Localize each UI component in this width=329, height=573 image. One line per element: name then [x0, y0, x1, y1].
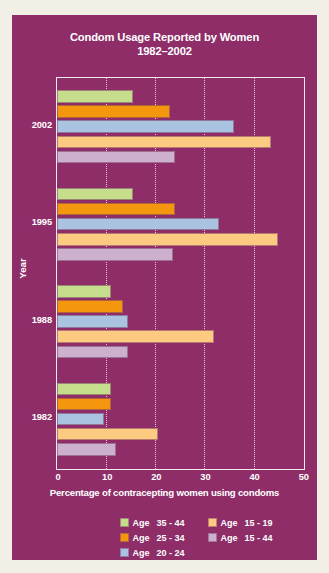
- y-tick-1995: 1995: [12, 217, 52, 227]
- bar-1995-Age35-44: [57, 188, 133, 201]
- bar-1995-Age20-24: [57, 218, 219, 231]
- legend-label: Age: [133, 518, 157, 528]
- legend-item-15-19[interactable]: Age15 - 19: [208, 518, 296, 528]
- chart-title: Condom Usage Reported by Women 1982–2002: [12, 31, 317, 58]
- x-tick-20: 20: [141, 472, 171, 482]
- bar-1988-Age35-44: [57, 285, 111, 298]
- bar-2002-Age15-44: [57, 151, 175, 164]
- bar-row: [57, 300, 303, 313]
- bar-1988-Age15-19: [57, 330, 214, 343]
- bar-1982-Age25-34: [57, 398, 111, 411]
- bar-row: [57, 398, 303, 411]
- legend-range: 25 - 34: [157, 533, 185, 543]
- legend-label: Age: [221, 518, 245, 528]
- legend-swatch-icon: [120, 518, 129, 527]
- x-tick-50: 50: [289, 472, 317, 482]
- legend-item-15-44[interactable]: Age15 - 44: [208, 533, 296, 543]
- legend-item-35-44[interactable]: Age35 - 44: [120, 518, 208, 528]
- legend-range: 15 - 19: [245, 518, 273, 528]
- legend-swatch-icon: [208, 518, 217, 527]
- legend-label: Age: [221, 533, 245, 543]
- bar-row: [57, 90, 303, 103]
- bar-1982-Age15-19: [57, 428, 158, 441]
- chart-legend: Age35 - 44Age15 - 19Age25 - 34Age15 - 44…: [120, 515, 310, 560]
- bar-row: [57, 413, 303, 426]
- y-tick-2002: 2002: [12, 120, 52, 130]
- legend-range: 35 - 44: [157, 518, 185, 528]
- bar-1988-Age20-24: [57, 315, 128, 328]
- bar-1988-Age15-44: [57, 346, 128, 359]
- x-tick-10: 10: [92, 472, 122, 482]
- legend-swatch-icon: [120, 533, 129, 542]
- chart-title-main: Condom Usage Reported by Women: [12, 31, 317, 45]
- legend-swatch-icon: [208, 533, 217, 542]
- bar-row: [57, 105, 303, 118]
- y-axis-label: Year: [17, 246, 28, 292]
- bar-row: [57, 248, 303, 261]
- bar-2002-Age25-34: [57, 105, 170, 118]
- bar-1982-Age15-44: [57, 443, 116, 456]
- bar-2002-Age35-44: [57, 90, 133, 103]
- legend-row: Age35 - 44Age15 - 19: [120, 515, 310, 530]
- bar-row: [57, 151, 303, 164]
- bar-row: [57, 233, 303, 246]
- bar-row: [57, 120, 303, 133]
- bar-row: [57, 383, 303, 396]
- x-tick-40: 40: [240, 472, 270, 482]
- plot-area: [57, 78, 304, 469]
- bar-row: [57, 428, 303, 441]
- chart-subtitle: 1982–2002: [12, 45, 317, 59]
- bar-row: [57, 218, 303, 231]
- bar-row: [57, 285, 303, 298]
- x-axis-ticks: 01020304050: [56, 472, 305, 486]
- bar-1995-Age15-44: [57, 248, 173, 261]
- legend-row: Age25 - 34Age15 - 44: [120, 530, 310, 545]
- x-tick-0: 0: [43, 472, 73, 482]
- bar-row: [57, 136, 303, 149]
- legend-label: Age: [133, 548, 157, 558]
- bar-group-1982: [57, 370, 304, 467]
- bar-row: [57, 188, 303, 201]
- bar-1995-Age25-34: [57, 203, 175, 216]
- bar-group-1988: [57, 273, 304, 370]
- bar-1995-Age15-19: [57, 233, 278, 246]
- chart-figure: Condom Usage Reported by Women 1982–2002…: [12, 15, 317, 560]
- bar-1982-Age20-24: [57, 413, 104, 426]
- x-axis-label: Percentage of contracepting women using …: [12, 487, 317, 498]
- legend-item-25-34[interactable]: Age25 - 34: [120, 533, 208, 543]
- bar-row: [57, 443, 303, 456]
- bar-group-1995: [57, 175, 304, 272]
- bar-2002-Age15-19: [57, 136, 271, 149]
- bar-row: [57, 315, 303, 328]
- bar-row: [57, 330, 303, 343]
- legend-swatch-icon: [120, 548, 129, 557]
- legend-row: Age20 - 24: [120, 545, 310, 560]
- plot-frame: [56, 77, 305, 470]
- legend-item-20-24[interactable]: Age20 - 24: [120, 548, 208, 558]
- bar-1988-Age25-34: [57, 300, 123, 313]
- legend-range: 15 - 44: [245, 533, 273, 543]
- bar-1982-Age35-44: [57, 383, 111, 396]
- legend-label: Age: [133, 533, 157, 543]
- y-tick-1988: 1988: [12, 315, 52, 325]
- legend-range: 20 - 24: [157, 548, 185, 558]
- x-tick-30: 30: [190, 472, 220, 482]
- y-tick-1982: 1982: [12, 412, 52, 422]
- bar-2002-Age20-24: [57, 120, 234, 133]
- bar-row: [57, 203, 303, 216]
- bar-row: [57, 346, 303, 359]
- bar-group-2002: [57, 78, 304, 175]
